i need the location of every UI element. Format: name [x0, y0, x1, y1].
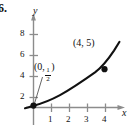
point-label-open: (0,	[34, 61, 45, 72]
point-label-y-intercept: (0,12)	[34, 62, 55, 83]
y-tick-label-8: 8	[20, 29, 25, 38]
point-label-close: )	[51, 61, 54, 72]
data-point-upper	[101, 66, 107, 72]
fraction-denominator: 2	[45, 75, 51, 83]
data-point-y-intercept	[30, 103, 36, 109]
y-tick-label-2: 2	[20, 92, 25, 101]
figure-container: 6. y x 8 6 4 2 1 2 3	[0, 0, 131, 133]
x-tick-label-3: 3	[84, 115, 89, 124]
y-tick-label-6: 6	[20, 50, 25, 59]
y-tick-label-4: 4	[20, 71, 25, 80]
point-label-upper: (4, 5)	[73, 38, 95, 48]
x-axis-label: x	[122, 108, 126, 118]
x-tick-label-4: 4	[102, 115, 107, 124]
y-axis-label: y	[33, 6, 37, 16]
x-tick-label-2: 2	[66, 115, 71, 124]
x-axis	[26, 105, 125, 110]
x-tick-label-1: 1	[48, 115, 53, 124]
